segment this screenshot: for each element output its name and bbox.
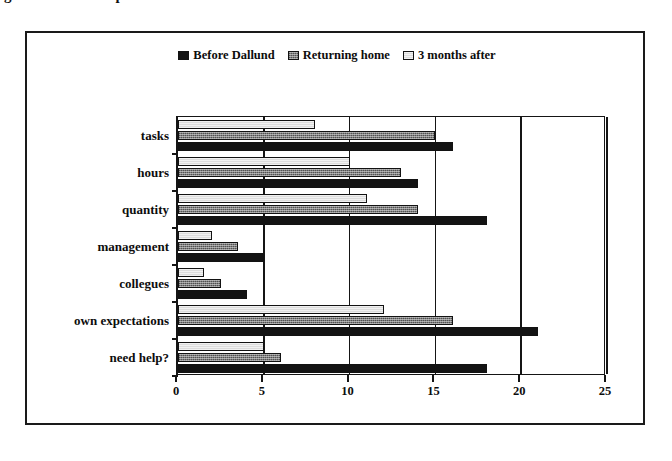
bar [178,205,418,214]
category-label: management [98,239,170,255]
legend-item: 3 months after [403,48,496,63]
bar [178,305,384,314]
bar-group: own expectations [178,302,604,339]
x-axis-tick [175,375,177,382]
plot-area: taskshoursquantitymanagementcolleguesown… [176,116,605,375]
bar [178,142,453,151]
category-label: hours [137,165,169,181]
chart-legend: Before DallundReturning home3 months aft… [27,48,647,63]
legend-item: Before Dallund [178,48,274,63]
category-label: collegues [119,276,169,292]
bar [178,268,204,277]
bar [178,120,315,129]
bar [178,242,238,251]
x-axis-tick-label: 25 [599,384,612,399]
bar [178,168,401,177]
bar [178,253,264,262]
light-gray-swatch [403,51,414,60]
page-title: g. 2: Problems experienced in relation t… [4,0,409,4]
bar [178,194,367,203]
legend-item-label: Returning home [303,48,390,63]
hatched-gray-swatch [288,51,299,60]
bar-group: quantity [178,191,604,228]
bar [178,342,264,351]
bar [178,327,538,336]
bar [178,364,487,373]
solid-black-swatch [178,51,189,60]
x-axis-tick [261,375,263,382]
chart-frame: Before DallundReturning home3 months aft… [25,31,645,425]
bar [178,279,221,288]
page-title-strip: g. 2: Problems experienced in relation t… [0,0,672,14]
bar [178,353,281,362]
bar [178,231,212,240]
legend-item-label: Before Dallund [193,48,274,63]
legend-item: Returning home [288,48,390,63]
bar [178,157,350,166]
x-axis-tick [518,375,520,382]
bar-group: tasks [178,117,604,154]
legend-item-label: 3 months after [418,48,496,63]
x-axis-tick [604,375,606,382]
bar-group: management [178,228,604,265]
x-axis-tick [347,375,349,382]
bar [178,131,435,140]
bar [178,179,418,188]
bar-group: hours [178,154,604,191]
x-axis-tick-label: 15 [427,384,440,399]
bar-group: need help? [178,339,604,376]
category-label: need help? [109,350,169,366]
category-label: tasks [141,128,169,144]
bar [178,216,487,225]
x-axis-tick-label: 20 [513,384,526,399]
gridline [606,117,608,374]
x-axis-tick-label: 10 [341,384,354,399]
bar [178,316,453,325]
bar-group: collegues [178,265,604,302]
category-label: own expectations [74,313,169,329]
x-axis-tick [432,375,434,382]
x-axis-tick-label: 5 [259,384,265,399]
category-label: quantity [122,202,169,218]
bar [178,290,247,299]
x-axis-tick-label: 0 [173,384,179,399]
